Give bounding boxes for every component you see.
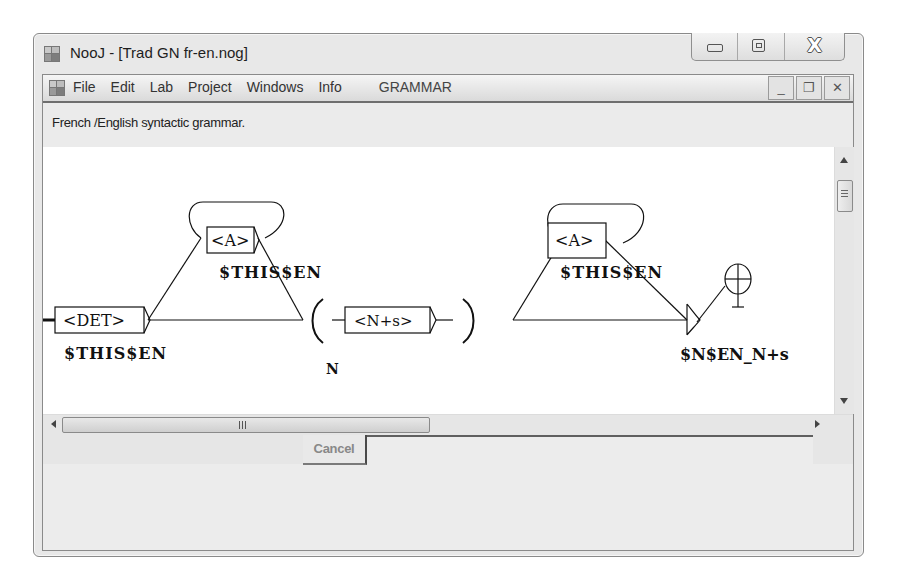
final-output-label: $N$EN_N+s	[680, 345, 789, 364]
grammar-description[interactable]: French /English syntactic grammar.	[52, 115, 245, 130]
variable-name: N	[326, 361, 339, 377]
menu-project[interactable]: Project	[188, 79, 232, 95]
horizontal-scrollbar[interactable]	[43, 414, 853, 434]
vertical-scrollbar[interactable]	[834, 147, 854, 414]
close-icon: X	[785, 34, 844, 56]
output-node[interactable]	[687, 304, 700, 335]
mdi-minimize-button[interactable]: _	[768, 76, 794, 100]
grammar-graph-canvas[interactable]: <DET> $THIS$EN <A> $THIS$EN N <N+s> <A> …	[43, 147, 834, 414]
nooj-window: NooJ - [Trad GN fr-en.nog] X File Edi	[33, 33, 864, 557]
node-det-output: $THIS$EN	[64, 344, 167, 363]
node-adj1-output: $THIS$EN	[219, 263, 322, 282]
variable-open[interactable]	[313, 299, 324, 343]
window-title: NooJ - [Trad GN fr-en.nog]	[70, 44, 248, 61]
title-bar[interactable]: NooJ - [Trad GN fr-en.nog] X	[34, 34, 863, 74]
document-icon[interactable]	[49, 80, 65, 96]
minimize-icon	[707, 44, 723, 52]
mdi-close-button[interactable]: ✕	[824, 76, 850, 100]
node-noun-label: <N+s>	[354, 312, 413, 330]
minimize-button[interactable]	[692, 33, 738, 60]
node-adj1-label: <A>	[211, 231, 249, 250]
node-adj2-label: <A>	[555, 231, 593, 250]
menu-edit[interactable]: Edit	[111, 79, 135, 95]
menu-info[interactable]: Info	[318, 79, 341, 95]
horizontal-scroll-thumb[interactable]	[62, 417, 430, 433]
terminal-node[interactable]	[725, 264, 751, 307]
close-button[interactable]: X	[785, 33, 844, 60]
menu-file[interactable]: File	[73, 79, 96, 95]
node-det-label: <DET>	[63, 311, 125, 330]
cancel-button[interactable]: Cancel	[303, 435, 367, 465]
variable-close[interactable]	[463, 299, 474, 343]
node-adj2-output: $THIS$EN	[560, 263, 663, 282]
scroll-right-icon[interactable]	[815, 420, 820, 428]
bottom-panel: Cancel	[43, 434, 853, 464]
nooj-app-icon	[44, 46, 60, 62]
scroll-left-icon[interactable]	[51, 420, 56, 428]
grammar-document-window: File Edit Lab Project Windows Info GRAMM…	[42, 74, 854, 551]
maximize-icon	[752, 39, 765, 52]
mdi-restore-button[interactable]: ❐	[796, 76, 822, 100]
menu-windows[interactable]: Windows	[247, 79, 304, 95]
scroll-down-icon[interactable]	[840, 398, 848, 404]
scroll-up-icon[interactable]	[840, 157, 848, 163]
menu-lab[interactable]: Lab	[150, 79, 173, 95]
status-panel	[367, 435, 813, 465]
menu-grammar[interactable]: GRAMMAR	[379, 79, 452, 95]
grammar-description-panel: French /English syntactic grammar.	[43, 103, 853, 147]
caption-buttons: X	[691, 33, 845, 61]
menu-bar: File Edit Lab Project Windows Info GRAMM…	[43, 75, 853, 103]
maximize-button[interactable]	[738, 33, 784, 60]
vertical-scroll-thumb[interactable]	[837, 180, 853, 212]
